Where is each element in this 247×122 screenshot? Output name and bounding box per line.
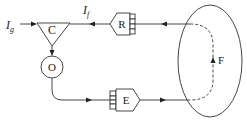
left-arrow-icon: [161, 22, 167, 27]
field-path-dashed: [190, 24, 213, 100]
emitter-label: E: [123, 94, 130, 106]
right-arrow-icon: [86, 98, 92, 103]
field-loop-ellipse: [178, 5, 242, 117]
oscillator-label: O: [48, 61, 56, 73]
feedback-signal-label: If: [82, 3, 91, 19]
field-label: F: [218, 54, 224, 66]
comparator-label: C: [48, 23, 56, 37]
input-signal-label: Ig: [5, 18, 14, 34]
right-arrow-icon: [160, 98, 166, 103]
oscillator-to-emitter-line: [52, 78, 110, 100]
receiver-label: R: [118, 18, 126, 30]
input-arrow-icon: [31, 22, 37, 27]
down-arrow-icon: [50, 50, 55, 56]
up-arrow-icon: [211, 57, 216, 63]
left-arrow-icon: [89, 22, 95, 27]
block-diagram: Ig C O E F R If: [0, 0, 247, 122]
